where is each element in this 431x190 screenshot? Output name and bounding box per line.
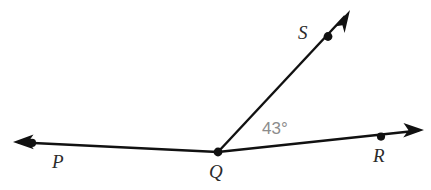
point-dot-P [28,139,36,147]
geometry-diagram: P Q R S 43° [0,0,431,190]
point-label-R: R [372,145,385,166]
point-label-P: P [51,151,64,172]
point-dot-S [324,32,333,41]
point-dot-Q [214,148,223,157]
arrow-head-right-icon [403,123,424,138]
angle-measure-label: 43° [262,119,288,138]
arrow-head-upper-right-icon [335,10,351,33]
point-dot-R [377,133,385,141]
geometry-canvas: P Q R S 43° [0,0,431,190]
segment-QR [218,131,419,153]
point-label-Q: Q [209,161,223,182]
segment-QP [18,142,218,152]
point-label-S: S [298,22,308,43]
